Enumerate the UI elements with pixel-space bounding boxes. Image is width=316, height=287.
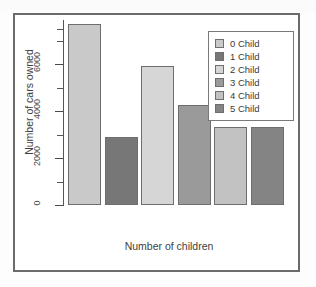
legend-item: 4 Child (215, 89, 286, 102)
legend-swatch-icon (215, 104, 224, 113)
legend-label: 3 Child (230, 76, 260, 89)
figure-page: 0200040006000 Number of cars owned Numbe… (0, 0, 316, 287)
bar (178, 105, 211, 205)
legend-label: 5 Child (230, 102, 260, 115)
bar (251, 127, 284, 205)
legend-item: 2 Child (215, 63, 286, 76)
legend-swatch-icon (215, 39, 224, 48)
bar (214, 127, 247, 205)
legend-label: 2 Child (230, 63, 260, 76)
legend-swatch-icon (215, 91, 224, 100)
legend-swatch-icon (215, 78, 224, 87)
legend-item: 5 Child (215, 102, 286, 115)
legend-item: 0 Child (215, 37, 286, 50)
legend-item: 1 Child (215, 50, 286, 63)
bar (68, 24, 101, 205)
legend-swatch-icon (215, 65, 224, 74)
legend-swatch-icon (215, 52, 224, 61)
bar (105, 137, 138, 205)
legend-label: 1 Child (230, 50, 260, 63)
legend: 0 Child1 Child2 Child3 Child4 Child5 Chi… (208, 31, 294, 121)
legend-item: 3 Child (215, 76, 286, 89)
legend-label: 4 Child (230, 89, 260, 102)
legend-label: 0 Child (230, 37, 260, 50)
bar (141, 66, 174, 205)
